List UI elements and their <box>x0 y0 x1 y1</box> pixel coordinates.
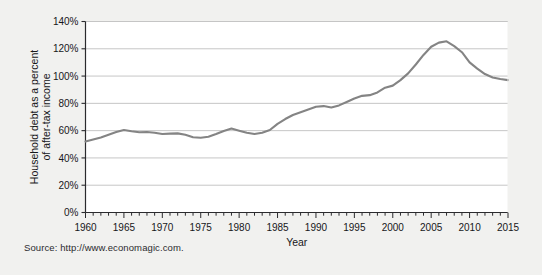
y-axis-tick-label: 40% <box>58 153 78 164</box>
y-axis-tick-label: 0% <box>64 207 79 218</box>
y-axis-title-line1: Household debt as a percent <box>28 50 40 184</box>
x-axis-tick-label: 1970 <box>151 222 174 233</box>
y-axis-title-line2: of after-tax income <box>40 73 52 160</box>
x-axis-tick-label: 1960 <box>74 222 97 233</box>
y-axis-tick-label: 80% <box>58 98 78 109</box>
x-axis-tick-label: 2000 <box>382 222 405 233</box>
x-axis-tick-label: 2010 <box>458 222 481 233</box>
y-axis-tick-label: 60% <box>58 125 78 136</box>
y-axis-tick-label: 20% <box>58 180 78 191</box>
source-note: Source: http://www.economagic.com. <box>24 242 184 253</box>
household-debt-line-chart: 0%20%40%60%80%100%120%140%19601965197019… <box>0 0 542 275</box>
x-axis-title: Year <box>286 236 308 248</box>
x-axis-tick-label: 1980 <box>228 222 251 233</box>
x-axis-tick-label: 1985 <box>266 222 289 233</box>
plot-area-background <box>86 22 509 213</box>
x-axis-tick-label: 1990 <box>305 222 328 233</box>
x-axis-tick-label: 1995 <box>343 222 366 233</box>
y-axis-tick-label: 140% <box>53 16 79 27</box>
y-axis-tick-label: 120% <box>53 43 79 54</box>
chart-figure: 0%20%40%60%80%100%120%140%19601965197019… <box>0 0 542 275</box>
y-axis-tick-label: 100% <box>53 71 79 82</box>
x-axis-tick-label: 2015 <box>497 222 520 233</box>
x-axis-tick-label: 1975 <box>190 222 213 233</box>
x-axis-tick-label: 2005 <box>420 222 443 233</box>
x-axis-tick-label: 1965 <box>113 222 136 233</box>
